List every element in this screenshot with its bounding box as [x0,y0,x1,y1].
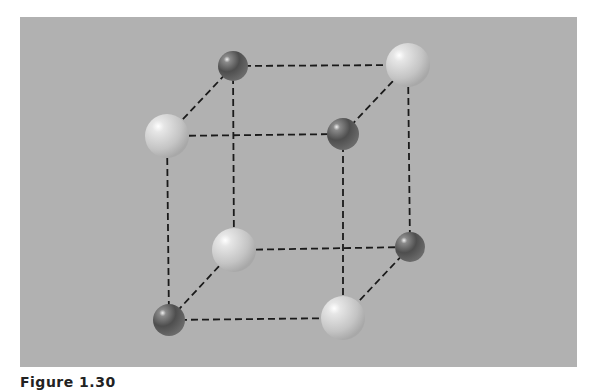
light-atom-front-bottom-right [321,296,365,340]
lattice-edge [167,134,343,136]
lattice-edge [234,247,410,250]
lattice-edge [408,65,410,247]
light-atom-back-bottom-left [212,228,256,272]
lattice-edges [167,65,410,320]
dark-atom-front-top-right [327,118,359,150]
light-atom-front-top-left [145,114,189,158]
figure-caption: Figure 1.30 [20,374,116,390]
lattice-edge [233,66,234,250]
lattice-atoms [145,43,430,340]
light-atom-back-top-right [386,43,430,87]
lattice-edge [167,136,169,320]
lattice-edge [233,65,408,66]
lattice-edge [169,318,343,320]
dark-atom-back-top-left [218,51,248,81]
dark-atom-front-bottom-left [153,304,185,336]
dark-atom-back-bottom-right [395,232,425,262]
